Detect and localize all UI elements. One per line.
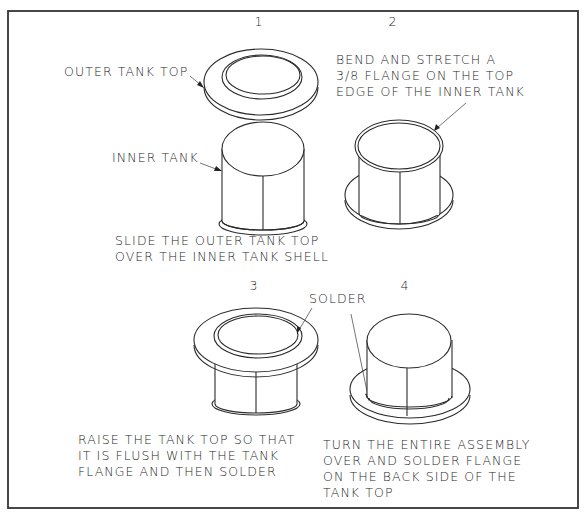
outer-tank-top-label: OUTER TANK TOP bbox=[64, 64, 188, 79]
step-3-number: 3 bbox=[249, 278, 258, 293]
step-4-number: 4 bbox=[400, 278, 409, 293]
inner-tank-cylinder bbox=[219, 122, 307, 235]
step-4: 4 TURN THE ENTIRE ASSEMBLY OVER AND SOLD… bbox=[323, 278, 530, 500]
step-1-caption-line-1: SLIDE THE OUTER TANK TOP bbox=[115, 233, 319, 248]
step-2-note-line-2: 3/8 FLANGE ON THE TOP bbox=[336, 68, 514, 83]
tank-top-raised-assembly bbox=[194, 308, 318, 415]
step-3: 3 RAISE THE TANK TOP SO THAT IT IS FLUSH… bbox=[78, 278, 318, 479]
arrow-icon bbox=[197, 81, 204, 88]
step-4-caption-line-2: OVER AND SOLDER FLANGE bbox=[323, 453, 522, 468]
step-2: 2 BEND AND STRETCH A 3/8 FLANGE ON THE T… bbox=[336, 14, 525, 229]
arrow-icon bbox=[214, 166, 222, 171]
inner-tank-label: INNER TANK bbox=[112, 150, 199, 165]
arrow-icon bbox=[434, 124, 440, 131]
step-3-caption-line-3: FLANGE AND THEN SOLDER bbox=[78, 464, 277, 479]
inner-tank-leader bbox=[200, 163, 216, 169]
step-4-caption-line-4: TANK TOP bbox=[323, 485, 394, 500]
solder-leader-step-4 bbox=[351, 314, 368, 396]
step-3-caption-line-1: RAISE THE TANK TOP SO THAT bbox=[78, 432, 295, 447]
inverted-tank-assembly bbox=[350, 314, 470, 424]
step-2-note-line-3: EDGE OF THE INNER TANK bbox=[336, 84, 525, 99]
flange-leader bbox=[437, 103, 466, 128]
outer-tank-top-ring bbox=[204, 49, 318, 120]
step-2-note-line-1: BEND AND STRETCH A bbox=[336, 52, 496, 67]
step-4-caption-line-1: TURN THE ENTIRE ASSEMBLY bbox=[323, 437, 530, 452]
step-1-number: 1 bbox=[254, 14, 263, 29]
step-1-caption-line-2: OVER THE INNER TANK SHELL bbox=[115, 249, 329, 264]
inner-tank-with-flange bbox=[345, 120, 453, 229]
step-3-caption-line-2: IT IS FLUSH WITH THE TANK bbox=[78, 448, 279, 463]
step-1: 1 OUTER TANK TOP INNER TANK SLIDE THE OU… bbox=[64, 14, 329, 264]
assembly-diagram: 1 OUTER TANK TOP INNER TANK SLIDE THE OU… bbox=[0, 0, 587, 515]
step-4-caption-line-3: ON THE BACK SIDE OF THE bbox=[323, 469, 517, 484]
step-2-number: 2 bbox=[388, 14, 397, 29]
solder-label: SOLDER bbox=[309, 291, 367, 306]
